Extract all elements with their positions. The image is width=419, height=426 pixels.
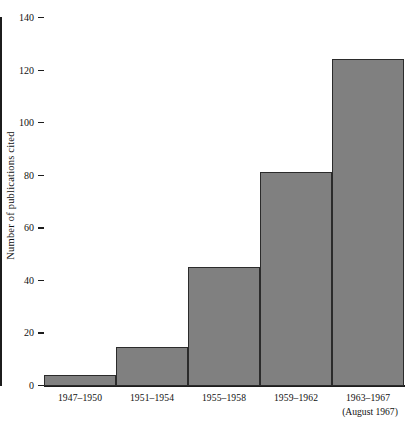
y-tick-120	[38, 70, 44, 71]
x-tick-label-1959-1962: 1959–1962	[260, 392, 332, 403]
bar-chart-figure: Number of publications cited 140 120 100…	[0, 0, 419, 426]
y-tick-label-20: 20	[0, 327, 34, 338]
bar-1951-1954	[116, 347, 188, 386]
y-tick-20	[38, 332, 44, 333]
y-tick-140	[38, 17, 44, 18]
y-tick-label-60: 60	[0, 222, 34, 233]
x-tick-label-1955-1958: 1955–1958	[188, 392, 260, 403]
bar-1959-1962	[260, 172, 332, 386]
x-tick-label-1951-1954: 1951–1954	[116, 392, 188, 403]
y-tick-100	[38, 122, 44, 123]
x-tick-label-1963-1967: 1963–1967	[332, 392, 404, 403]
y-tick-label-0: 0	[0, 380, 34, 391]
x-tick-label-1947-1950: 1947–1950	[44, 392, 116, 403]
bar-1955-1958	[188, 267, 260, 386]
bar-1963-1967	[332, 59, 404, 386]
y-tick-label-140: 140	[0, 12, 34, 23]
y-tick-label-40: 40	[0, 274, 34, 285]
y-axis-title-text: Number of publications cited	[5, 131, 16, 259]
y-tick-label-120: 120	[0, 64, 34, 75]
y-tick-label-80: 80	[0, 169, 34, 180]
y-tick-80	[38, 175, 44, 176]
y-tick-60	[38, 227, 44, 228]
y-tick-40	[38, 280, 44, 281]
bar-1947-1950	[44, 375, 116, 387]
x-tick-sublabel-august-1967: (August 1967)	[332, 406, 408, 417]
y-tick-label-100: 100	[0, 117, 34, 128]
